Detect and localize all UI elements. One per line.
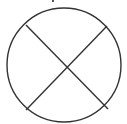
- diagonal-line-2: [26, 26, 107, 110]
- dot-mark: [52, 0, 54, 2]
- circle-cross-diagram: [0, 0, 127, 124]
